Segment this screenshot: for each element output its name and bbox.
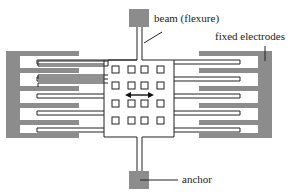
beam-label: beam (flexure) [154, 12, 219, 24]
anchor-label: anchor [182, 173, 212, 185]
fixed-electrodes-label: fixed electrodes [215, 30, 285, 42]
motion-arrow-icon [125, 92, 154, 98]
beam-leader-line [144, 32, 162, 43]
top-beam [137, 27, 142, 60]
bottom-beam [137, 137, 142, 171]
top-anchor [129, 9, 149, 27]
